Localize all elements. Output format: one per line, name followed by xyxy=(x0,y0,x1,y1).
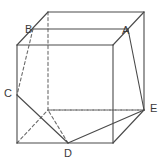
geometry-figure: B A C E D xyxy=(0,0,162,163)
cut-A-to-E xyxy=(128,29,144,110)
cut-D-to-E xyxy=(68,110,144,143)
vertex-label-D: D xyxy=(64,148,72,159)
right-diagonal-edge xyxy=(113,110,144,143)
cut-C-to-D xyxy=(17,95,68,143)
vertex-label-C: C xyxy=(4,88,12,99)
left-bottom-diagonal-edge xyxy=(17,110,48,143)
vertex-label-E: E xyxy=(150,103,157,114)
vertex-label-B: B xyxy=(25,24,32,35)
cut-B-to-C-hidden xyxy=(17,29,33,95)
vertex-label-A: A xyxy=(122,25,129,36)
